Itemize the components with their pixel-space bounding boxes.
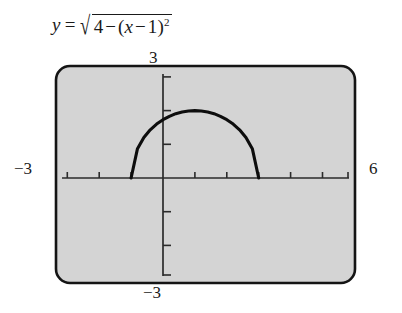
x-min-label: −3 bbox=[14, 159, 32, 179]
screen-inner-fill bbox=[58, 68, 353, 281]
y-min-label: −3 bbox=[143, 283, 161, 303]
graphing-calculator-figure: y=√4 − (x − 1)2 3 −3 −3 6 bbox=[0, 0, 402, 313]
equation-lhs: y bbox=[52, 14, 61, 35]
radicand-exponent: 2 bbox=[164, 15, 170, 27]
radical-expression: √4 − (x − 1)2 bbox=[80, 15, 172, 39]
calculator-screen bbox=[0, 0, 402, 313]
radicand-inner-constant: 1 bbox=[148, 16, 158, 37]
radicand: 4 − (x − 1)2 bbox=[92, 14, 172, 38]
radicand-minus: − bbox=[105, 16, 116, 37]
radicand-inner-minus: − bbox=[135, 16, 146, 37]
radical-sign-icon: √ bbox=[80, 13, 90, 39]
radicand-variable: x bbox=[125, 16, 134, 37]
radicand-constant: 4 bbox=[94, 16, 104, 37]
equation-equals-sign: = bbox=[61, 14, 80, 35]
x-max-label: 6 bbox=[369, 159, 378, 179]
equation-caption: y=√4 − (x − 1)2 bbox=[52, 14, 172, 39]
y-max-label: 3 bbox=[149, 48, 158, 68]
